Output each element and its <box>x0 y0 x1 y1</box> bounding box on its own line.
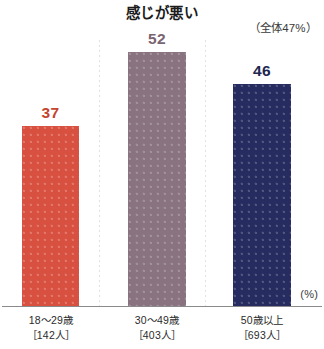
bar-fill-dotted <box>233 84 291 307</box>
chart-container: 感じが悪い （全体47%） 37 52 46 (%) 18〜29歳 ［142人］… <box>0 0 324 349</box>
bar-30-49 <box>128 52 186 307</box>
bar-fill-dotted <box>128 52 186 307</box>
category-separator-2 <box>205 40 206 307</box>
category-count-text: ［403人］ <box>110 328 204 343</box>
category-label-50-plus: 50歳以上 ［693人］ <box>215 313 309 343</box>
unit-label: (%) <box>300 288 318 300</box>
category-label-30-49: 30〜49歳 ［403人］ <box>110 313 204 343</box>
category-separator-1 <box>99 40 100 307</box>
bar-value-label: 37 <box>22 104 79 122</box>
category-label-text: 18〜29歳 <box>29 314 74 326</box>
bar-value-label: 52 <box>128 30 186 48</box>
bar-fill-dotted <box>22 126 79 307</box>
category-count-text: ［693人］ <box>215 328 309 343</box>
bar-18-29 <box>22 126 79 307</box>
plot-area: 37 52 46 (%) 18〜29歳 ［142人］ 30〜49歳 ［403人］… <box>0 0 324 349</box>
category-label-18-29: 18〜29歳 ［142人］ <box>4 313 98 343</box>
bar-value-label: 46 <box>233 62 291 80</box>
category-label-text: 50歳以上 <box>241 314 284 326</box>
category-label-text: 30〜49歳 <box>135 314 180 326</box>
axis-baseline <box>2 306 322 307</box>
bar-50-plus <box>233 84 291 307</box>
category-count-text: ［142人］ <box>4 328 98 343</box>
